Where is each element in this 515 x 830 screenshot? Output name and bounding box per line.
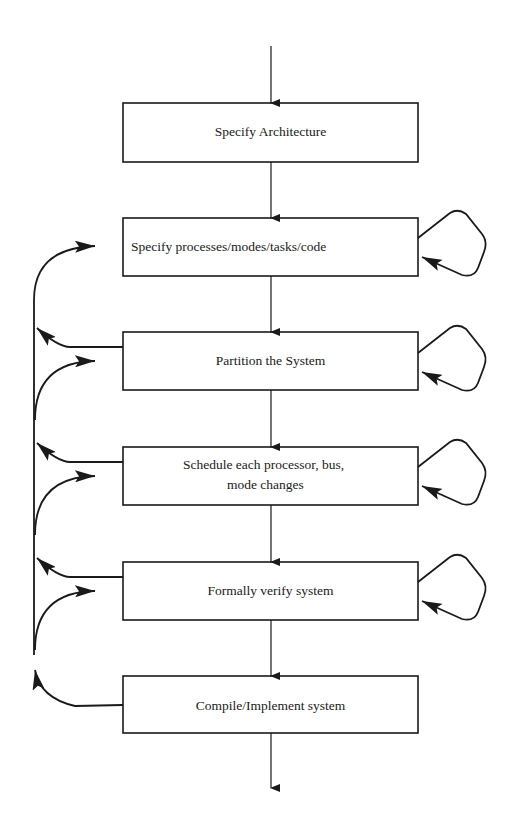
self-loop-box-4 — [418, 440, 486, 505]
self-loop-box-2 — [418, 211, 486, 276]
self-loop-box-3 — [418, 326, 486, 391]
self-loop-box-5 — [418, 555, 486, 620]
step-label-1: Specify Architecture — [123, 122, 418, 142]
step-label-4-line1: Schedule each processor, bus, — [183, 455, 344, 475]
feedback-spine — [34, 246, 95, 655]
feedback-out-box-5 — [37, 558, 123, 577]
feedback-into-box-3 — [35, 361, 95, 420]
feedback-into-box-4 — [35, 476, 95, 535]
step-label-4-line2: mode changes — [227, 475, 304, 495]
step-label-5: Formally verify system — [123, 581, 418, 601]
step-label-3: Partition the System — [123, 351, 418, 371]
feedback-into-box-5 — [35, 591, 95, 650]
feedback-out-box-6 — [35, 670, 123, 706]
step-label-2: Specify processes/modes/tasks/code — [131, 237, 326, 257]
feedback-out-box-3 — [37, 328, 123, 347]
step-label-6: Compile/Implement system — [123, 696, 418, 716]
feedback-out-box-4 — [37, 443, 123, 462]
